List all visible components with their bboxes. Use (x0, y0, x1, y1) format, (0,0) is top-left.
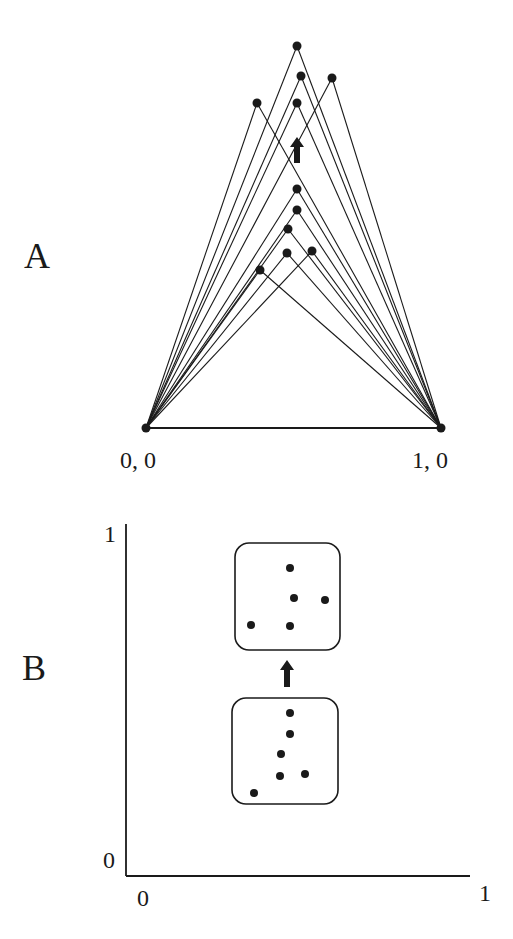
box-after-point (321, 596, 329, 604)
triangle-edge-right (288, 229, 441, 428)
triangle-edge-right (297, 103, 441, 428)
apex-point-after (328, 74, 337, 83)
apex-point-after (293, 42, 302, 51)
up-arrow-icon (290, 137, 304, 163)
apex-point-after (293, 99, 302, 108)
triangle-edge-left (146, 210, 297, 428)
apex-point-before (256, 266, 265, 275)
triangle-edge-right (297, 189, 441, 428)
box-before-point (276, 772, 284, 780)
triangle-edge-left (146, 103, 297, 428)
triangle-edge-right (257, 103, 441, 428)
triangle-edge-left (146, 189, 297, 428)
box-before-point (286, 709, 294, 717)
triangle-edge-left (146, 46, 297, 428)
triangle-edge-left (146, 103, 257, 428)
triangle-edge-right (297, 210, 441, 428)
panel-b-label: B (22, 650, 46, 686)
panel-a-label: A (24, 238, 50, 274)
triangle-edge-right (287, 253, 441, 428)
box-before-point (277, 750, 285, 758)
apex-point-after (297, 72, 306, 81)
triangle-edge-left (146, 251, 312, 428)
panel-a-triangles (142, 42, 446, 433)
y-axis-bottom-label: 0 (103, 848, 115, 872)
y-axis-top-label: 1 (104, 522, 116, 546)
triangle-edge-right (301, 76, 441, 428)
panel-b-scatter (126, 524, 470, 876)
box-after-point (247, 621, 255, 629)
x-axis-left-label: 0 (137, 886, 149, 910)
box-before-point (301, 770, 309, 778)
triangle-edge-right (312, 251, 441, 428)
triangle-edge-left (146, 78, 332, 428)
base-left-point (142, 424, 151, 433)
triangle-edge-left (146, 253, 287, 428)
box-before-point (250, 789, 258, 797)
box-after-point (290, 594, 298, 602)
box-after-point (286, 564, 294, 572)
triangle-edge-left (146, 76, 301, 428)
base-left-label: 0, 0 (120, 448, 156, 472)
apex-point-after (253, 99, 262, 108)
apex-point-before (283, 249, 292, 258)
box-after-point (286, 622, 294, 630)
apex-point-before (293, 206, 302, 215)
triangle-edge-right (332, 78, 441, 428)
x-axis-right-label: 1 (479, 881, 491, 905)
triangle-edge-left (146, 270, 260, 428)
apex-point-before (293, 185, 302, 194)
box-before (232, 698, 338, 804)
triangle-edge-right (260, 270, 441, 428)
apex-point-before (284, 225, 293, 234)
base-right-point (437, 424, 446, 433)
apex-point-before (308, 247, 317, 256)
up-arrow-icon (280, 660, 294, 687)
box-before-point (286, 730, 294, 738)
base-right-label: 1, 0 (412, 448, 448, 472)
